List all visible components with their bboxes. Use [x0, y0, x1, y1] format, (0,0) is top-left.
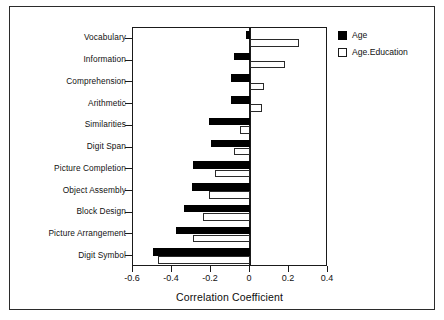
y-axis-category-label: Picture Arrangement [48, 229, 126, 237]
y-axis-tick [125, 190, 132, 191]
bar-age [209, 118, 250, 126]
bar-age-education [250, 104, 262, 112]
y-axis-tick [125, 81, 132, 82]
y-axis-category-label: Information [83, 55, 126, 63]
legend-entry-age-education: Age.Education [338, 45, 430, 59]
x-axis-title: Correlation Coefficient [132, 291, 327, 303]
y-axis-tick [125, 147, 132, 148]
bar-age [231, 96, 251, 104]
bar-age-education [240, 126, 250, 134]
y-axis-tick [125, 38, 132, 39]
figure: VocabularyInformationComprehensionArithm… [0, 0, 444, 320]
y-axis-tick [125, 233, 132, 234]
x-axis-tick-label: 0.2 [268, 274, 308, 283]
y-axis-tick [125, 60, 132, 61]
bar-age-education [193, 235, 250, 243]
y-axis-tick [125, 212, 132, 213]
bar-age-education [250, 83, 264, 91]
bar-age-education [158, 256, 250, 264]
x-axis-tick [327, 266, 328, 272]
x-axis-tick [132, 266, 133, 272]
bar-age [234, 53, 250, 61]
x-axis-tick-label: 0 [229, 274, 269, 283]
bar-age [193, 161, 250, 169]
bar-age [153, 248, 251, 256]
bar-age [211, 140, 250, 148]
legend-swatch-open-white-square-icon [338, 48, 347, 57]
x-axis-tick-label: -0.6 [112, 274, 152, 283]
bar-age-education [234, 148, 250, 156]
x-axis-tick-label: -0.4 [151, 274, 191, 283]
y-axis-category-label: Digit Symbol [78, 251, 126, 259]
bar-age [184, 205, 250, 213]
y-axis-category-label: Picture Completion [54, 164, 126, 172]
bar-age-education [250, 61, 285, 69]
legend-swatch-filled-black-square-icon [338, 31, 347, 40]
x-axis-tick [249, 266, 250, 272]
y-axis-tick [125, 255, 132, 256]
y-axis-category-label: Object Assembly [63, 186, 126, 194]
x-axis-tick-label: 0.4 [307, 274, 347, 283]
y-axis-category-label: Similarities [85, 120, 126, 128]
bar-age [176, 227, 250, 235]
bar-age-education [203, 213, 250, 221]
bar-age-education [215, 170, 250, 178]
y-axis-category-label: Digit Span [87, 142, 126, 150]
y-axis-category-label: Arithmetic [88, 99, 126, 107]
legend-label: Age [352, 31, 367, 40]
y-axis-tick [125, 103, 132, 104]
x-axis-tick-label: -0.2 [190, 274, 230, 283]
y-axis-tick [125, 168, 132, 169]
x-axis-tick [210, 266, 211, 272]
bar-age [231, 74, 251, 82]
chart-legend: Age Age.Education [338, 28, 430, 62]
y-axis-tick [125, 125, 132, 126]
bar-age-education [250, 39, 299, 47]
bar-age [246, 31, 250, 39]
y-axis-category-label: Vocabulary [84, 33, 126, 41]
bar-age [192, 183, 251, 191]
bar-age-education [209, 191, 250, 199]
legend-entry-age: Age [338, 28, 430, 42]
x-axis-tick [288, 266, 289, 272]
x-axis-tick [171, 266, 172, 272]
y-axis-category-label: Comprehension [66, 77, 126, 85]
plot-area [132, 27, 327, 266]
legend-label: Age.Education [352, 48, 408, 57]
bars-container [133, 28, 326, 265]
y-axis-category-label: Block Design [76, 207, 126, 215]
